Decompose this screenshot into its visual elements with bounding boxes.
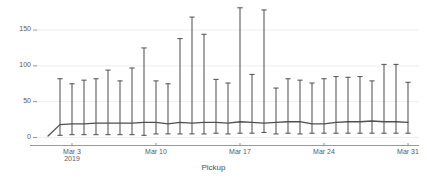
x-tick-text: Mar 24 xyxy=(313,148,335,155)
y-tick-label-150: 150 xyxy=(4,25,31,32)
pickup-errorbar-chart: 0 50 100 150 Mar 3 2019 Mar 10 Mar 17 Ma… xyxy=(0,0,427,181)
y-tick-label-100: 100 xyxy=(4,61,31,68)
x-tick-text: Mar 17 xyxy=(229,148,251,155)
x-tick-label-mar-24: Mar 24 xyxy=(299,148,349,155)
x-tick-label-mar-31: Mar 31 xyxy=(383,148,427,155)
x-axis-title: Pickup xyxy=(0,163,427,172)
x-tick-year: 2019 xyxy=(47,155,97,162)
x-tick-text: Mar 3 xyxy=(63,148,81,155)
y-tick-label-50: 50 xyxy=(4,97,31,104)
x-tick-label-mar-10: Mar 10 xyxy=(131,148,181,155)
x-tick-label-mar-17: Mar 17 xyxy=(215,148,265,155)
y-tick-label-0: 0 xyxy=(4,133,31,140)
x-tick-text: Mar 10 xyxy=(145,148,167,155)
errorbar-group xyxy=(57,8,410,136)
x-tick-label-mar-3: Mar 3 2019 xyxy=(47,148,97,162)
x-tick-text: Mar 31 xyxy=(397,148,419,155)
